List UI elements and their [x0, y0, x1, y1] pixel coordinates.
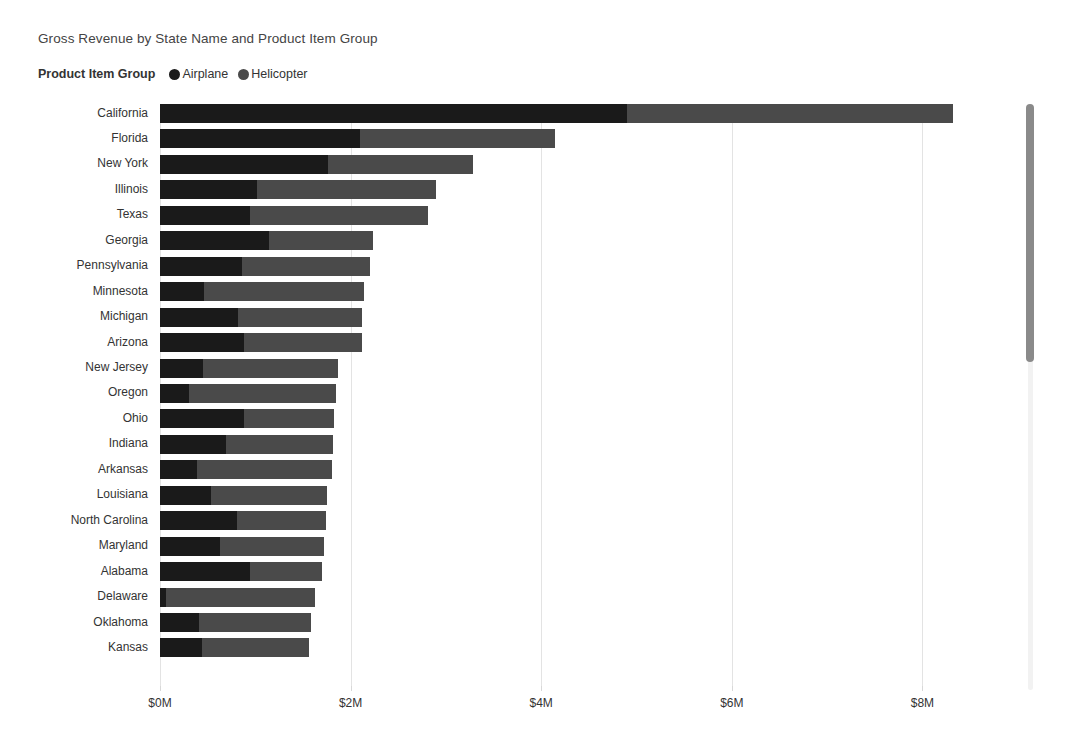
bar-segment-helicopter[interactable] [189, 384, 337, 403]
bar-row[interactable] [160, 155, 473, 174]
bar-segment-airplane[interactable] [160, 231, 269, 250]
x-axis-tick-mark [541, 686, 542, 691]
page-title: Gross Revenue by State Name and Product … [38, 31, 378, 46]
bar-segment-airplane[interactable] [160, 282, 204, 301]
bar-segment-airplane[interactable] [160, 308, 238, 327]
bar-row[interactable] [160, 537, 324, 556]
bar-row[interactable] [160, 613, 311, 632]
bar-segment-helicopter[interactable] [269, 231, 373, 250]
legend: Product Item Group Airplane Helicopter [38, 66, 318, 82]
plot-area: CaliforniaFloridaNew YorkIllinoisTexasGe… [0, 100, 1020, 690]
bar-row[interactable] [160, 588, 315, 607]
x-axis-tick-mark [351, 686, 352, 691]
x-axis-tick-label: $4M [530, 696, 553, 710]
bar-row[interactable] [160, 282, 364, 301]
bar-row[interactable] [160, 562, 322, 581]
bar-segment-airplane[interactable] [160, 435, 226, 454]
bar-segment-airplane[interactable] [160, 638, 202, 657]
legend-dot-icon [238, 69, 249, 80]
bar-segment-helicopter[interactable] [199, 613, 311, 632]
bar-row[interactable] [160, 180, 436, 199]
bar-segment-airplane[interactable] [160, 180, 257, 199]
x-axis-tick-label: $6M [720, 696, 743, 710]
x-axis: $0M$2M$4M$6M$8M [0, 686, 1020, 726]
legend-item-airplane[interactable]: Airplane [169, 67, 228, 81]
bar-row[interactable] [160, 359, 338, 378]
bar-segment-airplane[interactable] [160, 359, 203, 378]
bar-segment-airplane[interactable] [160, 511, 237, 530]
bar-segment-helicopter[interactable] [226, 435, 334, 454]
bar-segment-helicopter[interactable] [244, 333, 362, 352]
x-axis-tick-label: $2M [339, 696, 362, 710]
bar-segment-airplane[interactable] [160, 537, 220, 556]
x-axis-tick-label: $0M [148, 696, 171, 710]
bar-row[interactable] [160, 486, 327, 505]
bar-segment-helicopter[interactable] [211, 486, 327, 505]
legend-dot-icon [169, 69, 180, 80]
x-axis-tick-mark [922, 686, 923, 691]
bar-segment-helicopter[interactable] [202, 638, 309, 657]
bar-segment-helicopter[interactable] [197, 460, 332, 479]
chart-visual-container: Gross Revenue by State Name and Product … [0, 0, 1083, 736]
bar-segment-helicopter[interactable] [250, 562, 322, 581]
bar-segment-helicopter[interactable] [242, 257, 370, 276]
bar-segment-helicopter[interactable] [166, 588, 316, 607]
bar-segment-airplane[interactable] [160, 155, 328, 174]
bar-segment-helicopter[interactable] [250, 206, 428, 225]
bar-segment-helicopter[interactable] [220, 537, 324, 556]
bar-row[interactable] [160, 409, 334, 428]
x-axis-tick-label: $8M [911, 696, 934, 710]
bar-row[interactable] [160, 435, 333, 454]
bar-segment-helicopter[interactable] [627, 104, 953, 123]
legend-item-helicopter[interactable]: Helicopter [238, 67, 307, 81]
bar-segment-helicopter[interactable] [203, 359, 338, 378]
bar-row[interactable] [160, 257, 370, 276]
bar-segment-airplane[interactable] [160, 129, 360, 148]
bar-row[interactable] [160, 384, 336, 403]
bar-segment-airplane[interactable] [160, 257, 242, 276]
bar-segment-helicopter[interactable] [360, 129, 555, 148]
bar-segment-airplane[interactable] [160, 333, 244, 352]
bar-segment-airplane[interactable] [160, 104, 627, 123]
bar-segment-airplane[interactable] [160, 206, 250, 225]
legend-item-label: Helicopter [251, 67, 307, 81]
bar-row[interactable] [160, 638, 309, 657]
bar-segment-airplane[interactable] [160, 409, 244, 428]
bar-row[interactable] [160, 333, 362, 352]
bar-row[interactable] [160, 308, 362, 327]
bar-row[interactable] [160, 460, 332, 479]
bar-segment-helicopter[interactable] [238, 308, 362, 327]
bar-segment-airplane[interactable] [160, 384, 189, 403]
bar-series-group [0, 100, 1020, 690]
bar-segment-airplane[interactable] [160, 460, 197, 479]
scrollbar-thumb[interactable] [1026, 104, 1034, 362]
vertical-scrollbar[interactable] [1026, 104, 1034, 690]
bar-segment-airplane[interactable] [160, 486, 211, 505]
legend-item-label: Airplane [182, 67, 228, 81]
bar-segment-airplane[interactable] [160, 613, 199, 632]
bar-row[interactable] [160, 129, 555, 148]
bar-row[interactable] [160, 231, 373, 250]
bar-row[interactable] [160, 104, 953, 123]
bar-segment-helicopter[interactable] [244, 409, 335, 428]
bar-row[interactable] [160, 206, 428, 225]
bar-segment-helicopter[interactable] [237, 511, 326, 530]
bar-segment-airplane[interactable] [160, 562, 250, 581]
bar-row[interactable] [160, 511, 326, 530]
x-axis-tick-mark [160, 686, 161, 691]
bar-segment-helicopter[interactable] [328, 155, 473, 174]
x-axis-tick-mark [732, 686, 733, 691]
bar-segment-helicopter[interactable] [204, 282, 364, 301]
legend-title: Product Item Group [38, 67, 155, 81]
bar-segment-helicopter[interactable] [257, 180, 436, 199]
